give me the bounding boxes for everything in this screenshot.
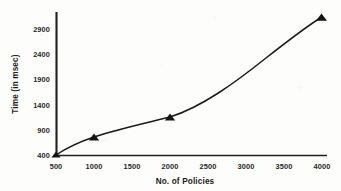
x-tick-label-2500: 2500 xyxy=(200,162,217,171)
y-tick-label-2900: 2900 xyxy=(33,25,50,34)
y-tick-label-400: 400 xyxy=(37,151,50,160)
x-tick-label-500: 500 xyxy=(50,162,63,171)
x-tick-label-1500: 1500 xyxy=(124,162,141,171)
x-tick-label-1000: 1000 xyxy=(86,162,103,171)
y-tick-label-2400: 2400 xyxy=(33,50,50,59)
data-point-marker-4000 xyxy=(316,14,327,21)
line-chart-plot: 2900 2400 1900 1400 900 400 500 1000 150… xyxy=(0,0,341,191)
x-tick-label-2000: 2000 xyxy=(162,162,179,171)
chart-container: 2900 2400 1900 1400 900 400 500 1000 150… xyxy=(0,0,341,191)
y-tick-label-900: 900 xyxy=(37,126,50,135)
y-axis-title: Time (in msec) xyxy=(11,54,20,113)
data-point-marker-1000 xyxy=(89,134,99,141)
series-line-time xyxy=(56,17,322,155)
y-tick-label-1400: 1400 xyxy=(33,101,50,110)
x-tick-label-3000: 3000 xyxy=(238,162,255,171)
y-tick-label-1900: 1900 xyxy=(33,75,50,84)
x-tick-label-4000: 4000 xyxy=(314,162,331,171)
x-tick-label-3500: 3500 xyxy=(276,162,293,171)
data-point-marker-2000 xyxy=(165,114,175,121)
x-axis-title: No. of Policies xyxy=(156,177,215,186)
